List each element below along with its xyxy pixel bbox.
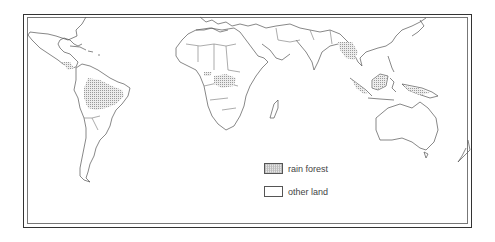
legend-label-rain-forest: rain forest xyxy=(288,164,328,174)
rainforest-central-america xyxy=(62,62,74,70)
japan-outline xyxy=(412,20,424,36)
tasmania-outline xyxy=(424,152,428,158)
rainforest-southeast-asia xyxy=(338,42,358,60)
world-map xyxy=(0,0,495,242)
other-land-swatch xyxy=(264,186,283,197)
legend-item-other-land: other land xyxy=(264,186,328,197)
new-zealand-outline xyxy=(458,140,470,162)
rainforest-sumatra xyxy=(352,80,368,94)
java-outline xyxy=(368,98,394,100)
legend-item-rain-forest: rain forest xyxy=(264,163,328,174)
north-america-outline xyxy=(28,17,86,68)
madagascar-outline xyxy=(270,100,278,118)
rainforest-west-africa xyxy=(204,72,212,76)
caribbean-islands xyxy=(70,46,100,55)
rain-forest-swatch xyxy=(264,163,283,174)
australia-outline xyxy=(376,102,438,150)
sulawesi-outline xyxy=(390,78,396,92)
rainforest-congo xyxy=(214,74,236,88)
legend-label-other-land: other land xyxy=(288,187,328,197)
philippines-outline xyxy=(388,56,394,72)
asia-outline xyxy=(248,18,426,66)
rainforest-amazon xyxy=(84,78,124,110)
